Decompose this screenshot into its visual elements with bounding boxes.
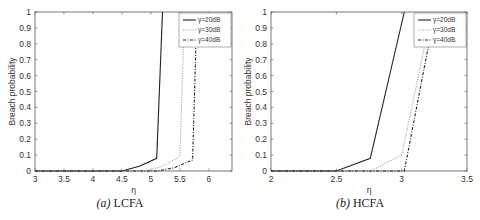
y-axis-label: Breach probability bbox=[7, 57, 17, 126]
y-tick-label: 1 bbox=[262, 7, 267, 17]
y-tick-label: 0.1 bbox=[19, 150, 31, 160]
y-tick-label: 0.5 bbox=[255, 87, 267, 97]
y-tick-label: 0.9 bbox=[19, 23, 31, 33]
legend-entry: γ=20dB bbox=[198, 16, 220, 24]
series-line bbox=[271, 36, 430, 171]
y-tick-label: 0 bbox=[262, 166, 267, 176]
x-tick-label: 4 bbox=[91, 174, 96, 184]
legend-entry: γ=30dB bbox=[433, 26, 455, 34]
y-tick-label: 0.5 bbox=[19, 87, 31, 97]
y-tick-label: 0.4 bbox=[255, 102, 267, 112]
series-line bbox=[35, 39, 196, 171]
y-tick-label: 0.2 bbox=[255, 134, 267, 144]
x-tick-label: 4.5 bbox=[116, 174, 128, 184]
x-tick-label: 3.5 bbox=[58, 174, 70, 184]
y-tick-label: 0 bbox=[26, 166, 31, 176]
y-tick-label: 0.3 bbox=[255, 118, 267, 128]
y-tick-label: 0.7 bbox=[255, 55, 267, 65]
caption-hcfa: (b) HCFA bbox=[240, 196, 480, 211]
x-tick-label: 3.5 bbox=[461, 174, 473, 184]
series-line bbox=[271, 12, 404, 171]
caption-text: HCFA bbox=[353, 196, 384, 210]
y-tick-label: 0.9 bbox=[255, 23, 267, 33]
y-tick-label: 0.8 bbox=[19, 39, 31, 49]
legend-entry: γ=40dB bbox=[433, 36, 455, 44]
x-tick-label: 2 bbox=[269, 174, 274, 184]
y-tick-label: 0.8 bbox=[255, 39, 267, 49]
x-axis-label: η bbox=[367, 185, 372, 195]
x-axis-label: η bbox=[131, 185, 136, 195]
caption-lcfa: (a) LCFA bbox=[0, 196, 240, 211]
y-tick-label: 0.7 bbox=[19, 55, 31, 65]
chart-panel-lcfa: 00.10.20.30.40.50.60.70.80.9133.544.555.… bbox=[0, 0, 240, 220]
y-tick-label: 1 bbox=[26, 7, 31, 17]
series-line bbox=[35, 12, 163, 171]
legend-entry: γ=40dB bbox=[198, 36, 220, 44]
legend-entry: γ=20dB bbox=[433, 16, 455, 24]
y-tick-label: 0.2 bbox=[19, 134, 31, 144]
x-tick-label: 5 bbox=[149, 174, 154, 184]
caption-prefix: (a) bbox=[97, 196, 111, 210]
y-tick-label: 0.6 bbox=[255, 71, 267, 81]
chart-panel-hcfa: 00.10.20.30.40.50.60.70.80.9122.533.5ηBr… bbox=[240, 0, 480, 220]
x-tick-label: 3 bbox=[33, 174, 38, 184]
plot-lcfa: 00.10.20.30.40.50.60.70.80.9133.544.555.… bbox=[0, 0, 240, 195]
caption-prefix: (b) bbox=[336, 196, 350, 210]
plot-hcfa: 00.10.20.30.40.50.60.70.80.9122.533.5ηBr… bbox=[240, 0, 480, 195]
y-axis-label: Breach probability bbox=[243, 57, 253, 126]
x-tick-label: 5.5 bbox=[174, 174, 186, 184]
caption-text: LCFA bbox=[114, 196, 144, 210]
legend-entry: γ=30dB bbox=[198, 26, 220, 34]
x-tick-label: 6 bbox=[206, 174, 211, 184]
x-tick-label: 3 bbox=[399, 174, 404, 184]
y-tick-label: 0.6 bbox=[19, 71, 31, 81]
y-tick-label: 0.4 bbox=[19, 102, 31, 112]
y-tick-label: 0.1 bbox=[255, 150, 267, 160]
x-tick-label: 2.5 bbox=[330, 174, 342, 184]
y-tick-label: 0.3 bbox=[19, 118, 31, 128]
series-line bbox=[271, 31, 428, 171]
